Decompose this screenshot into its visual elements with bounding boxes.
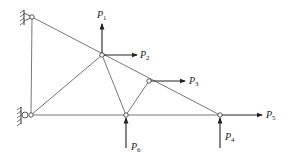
truss-diagram: P1 P2 P3 P4 P5 P6 bbox=[0, 0, 288, 158]
label-p5: P5 bbox=[265, 109, 276, 122]
label-p3: P3 bbox=[188, 75, 199, 88]
label-p6: P6 bbox=[130, 141, 141, 154]
wall-support-bottom bbox=[17, 107, 28, 126]
node-support-bottom bbox=[29, 113, 33, 117]
label-p2: P2 bbox=[139, 49, 150, 62]
node-p4p5 bbox=[218, 113, 222, 117]
label-p1: P1 bbox=[96, 9, 107, 22]
node-support-top bbox=[30, 15, 34, 19]
node-p2 bbox=[100, 53, 104, 57]
node-p6 bbox=[124, 113, 128, 117]
label-p4: P4 bbox=[224, 131, 235, 144]
node-p3 bbox=[147, 79, 151, 83]
truss-members bbox=[31, 17, 220, 115]
